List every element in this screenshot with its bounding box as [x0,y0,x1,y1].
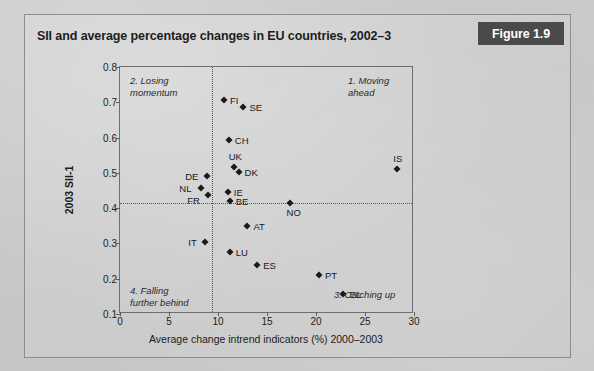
data-point-fr [205,191,212,198]
data-point-se [240,104,247,111]
data-point-fi [220,97,227,104]
data-point-label-lu: LU [236,247,248,258]
quadrant-label-falling-further-behind: 4. Falling further behind [130,285,189,309]
data-point-label-ch: CH [235,135,249,146]
x-axis-tick-mark [218,312,219,316]
data-point-is [394,165,401,172]
y-axis-tick-label: 0.3 [103,238,117,249]
y-axis-label: 2003 SII-1 [63,166,75,214]
data-point-no [286,199,293,206]
data-point-ch [225,136,232,143]
y-axis-tick-mark [116,173,120,174]
data-point-label-fr: FR [187,195,200,206]
figure-card: SII and average percentage changes in EU… [24,14,571,358]
data-point-it [202,238,209,245]
data-point-ie [224,189,231,196]
y-axis-tick-label: 0.2 [103,273,117,284]
x-axis-tick-label: 15 [261,316,272,327]
figure-number-badge: Figure 1.9 [478,22,564,45]
y-axis-tick-mark [116,138,120,139]
data-point-label-no: NO [287,207,301,218]
x-axis-tick-label: 10 [212,316,223,327]
y-axis-tick-label: 0.4 [103,203,117,214]
data-point-label-at: AT [253,221,264,232]
data-point-label-is: IS [393,153,402,164]
x-axis-tick-mark [316,312,317,316]
scatter-chart: 2003 SII-1 Average change intrend indica… [25,15,572,359]
data-point-dk [235,168,242,175]
data-point-lu [226,249,233,256]
y-axis-tick-mark [116,279,120,280]
data-point-label-es: ES [263,260,276,271]
x-axis-tick-label: 30 [408,316,419,327]
y-axis-tick-mark [116,243,120,244]
quadrant-label-losing-momentum: 2. Losing momentum [130,75,178,99]
x-axis-tick-mark [414,312,415,316]
plot-area: 1. Moving ahead 2. Losing momentum 3. Ca… [119,66,413,313]
y-axis-tick-mark [116,102,120,103]
data-point-nl [198,184,205,191]
y-axis-tick-label: 0.7 [103,97,117,108]
x-axis-tick-label: 20 [310,316,321,327]
data-point-es [254,261,261,268]
x-axis-tick-mark [120,312,121,316]
x-axis-tick-mark [267,312,268,316]
y-axis-tick-label: 0.1 [103,309,117,320]
data-point-label-se: SE [249,102,262,113]
data-point-label-be: BE [236,196,249,207]
x-axis-label: Average change intrend indicators (%) 20… [149,333,383,345]
y-axis-tick-label: 0.6 [103,132,117,143]
data-point-label-dk: DK [245,167,258,178]
data-point-uk [230,163,237,170]
vertical-reference-line [212,67,213,312]
x-axis-tick-label: 5 [166,316,172,327]
data-point-de [204,172,211,179]
page-title: SII and average percentage changes in EU… [37,29,391,43]
x-axis-tick-mark [365,312,366,316]
x-axis-tick-label: 0 [117,316,123,327]
data-point-label-uk: UK [229,151,242,162]
y-axis-tick-mark [116,208,120,209]
data-point-pt [315,272,322,279]
y-axis-tick-mark [116,67,120,68]
quadrant-label-moving-ahead: 1. Moving ahead [348,75,412,99]
y-axis-tick-label: 0.8 [103,62,117,73]
y-axis-tick-label: 0.5 [103,167,117,178]
page-background: SII and average percentage changes in EU… [0,0,594,371]
data-point-label-it: IT [188,237,196,248]
data-point-label-el: EL [349,289,361,300]
data-point-at [244,222,251,229]
data-point-label-pt: PT [325,270,337,281]
data-point-label-de: DE [185,171,198,182]
data-point-label-fi: FI [230,95,238,106]
data-point-label-nl: NL [179,183,191,194]
horizontal-reference-line [120,203,412,204]
x-axis-tick-label: 25 [359,316,370,327]
x-axis-tick-mark [169,312,170,316]
